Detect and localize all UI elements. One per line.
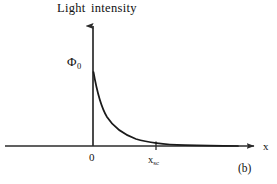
origin-tick-label: 0 [89,152,95,163]
x-sc-tick-label: xsc [148,155,159,167]
figure-container: Light intensity Φ0 0 xsc x (b) [0,0,277,184]
intensity-decay-curve [94,72,239,146]
phi-subscript: 0 [77,61,82,71]
light-intensity-plot [0,0,277,184]
panel-caption: (b) [238,163,251,175]
x-sc-subscript: sc [153,159,159,167]
x-axis-label: x [263,141,269,152]
y-axis-title: Light intensity [57,2,137,15]
phi-zero-label: Φ0 [67,55,81,70]
phi-symbol: Φ [67,54,77,69]
